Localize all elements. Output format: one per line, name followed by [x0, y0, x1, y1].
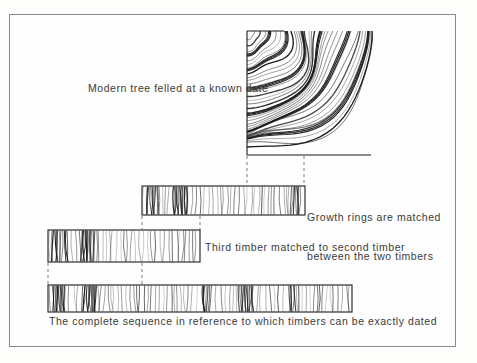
- label-growth-rings: Growth rings are matched between the two…: [307, 185, 441, 289]
- label-third-timber: Third timber matched to second timber: [205, 241, 405, 254]
- dendrochronology-figure: Modern tree felled at a known date Growt…: [0, 0, 477, 363]
- label-complete-sequence: The complete sequence in reference to wh…: [49, 315, 437, 328]
- diagram-artwork: [0, 0, 477, 363]
- label-growth-rings-line1: Growth rings are matched: [307, 211, 441, 224]
- label-modern-tree: Modern tree felled at a known date: [88, 82, 268, 95]
